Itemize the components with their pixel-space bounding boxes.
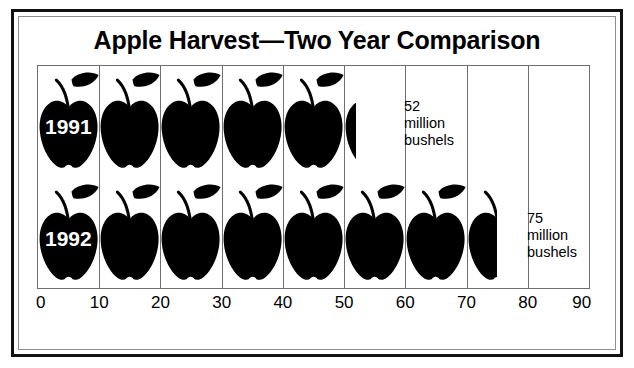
apple-icon [160,69,221,173]
apple-icon [283,181,344,285]
chart-outer-frame: Apple Harvest—Two Year Comparison 52 mil… [11,9,623,357]
axis-tick-label-20: 20 [151,293,170,313]
value-note-1991: 52 million bushels [404,98,454,149]
plot-area: 52 million bushels 1991 75 million bushe… [37,65,590,289]
apple-icon [222,69,283,173]
x-axis-tick-labels: 0102030405060708090 [37,293,590,315]
apple-icon [344,181,405,285]
axis-tick-label-80: 80 [518,293,537,313]
gridline-90 [589,66,590,288]
apple-icon [160,181,221,285]
axis-tick-label-90: 90 [572,293,591,313]
apple-icon [38,181,99,285]
chart-inner-frame: Apple Harvest—Two Year Comparison 52 mil… [18,16,616,350]
apple-icon [222,181,283,285]
pictograph-row-1992: 75 million bushels 1992 [38,180,589,285]
axis-tick-label-0: 0 [36,293,45,313]
apple-icon [99,181,160,285]
apple-icon [38,69,99,173]
apple-icon-partial [344,69,356,173]
apple-icon-partial [467,181,498,285]
axis-tick-label-30: 30 [212,293,231,313]
apple-icon [405,181,466,285]
page-title: Apple Harvest—Two Year Comparison [19,26,615,55]
axis-tick-label-40: 40 [273,293,292,313]
axis-tick-label-50: 50 [335,293,354,313]
axis-tick-label-70: 70 [457,293,476,313]
axis-tick-label-60: 60 [396,293,415,313]
apple-icon [99,69,160,173]
apple-icon [283,69,344,173]
axis-tick-label-10: 10 [90,293,109,313]
value-note-1992: 75 million bushels [527,210,577,261]
pictograph-row-1991: 52 million bushels 1991 [38,68,589,173]
